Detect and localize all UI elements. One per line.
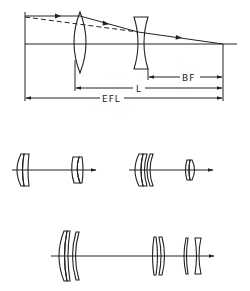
top-schematic: BF L EFL	[25, 12, 237, 104]
lens-layout-2	[129, 154, 213, 186]
ray-arrow-icon	[103, 21, 109, 26]
negative-lens	[134, 17, 148, 69]
l-dimension: L	[76, 84, 222, 94]
efl-dimension: EFL	[26, 94, 222, 104]
telephoto-diagram: BF L EFL	[0, 0, 250, 291]
positive-lens	[74, 12, 86, 73]
lens-layout-3	[51, 231, 214, 281]
bf-dimension: BF	[149, 73, 222, 83]
lens-layout-1	[12, 154, 96, 186]
ray-arrow-icon	[55, 14, 61, 19]
bf-label: BF	[182, 73, 195, 83]
l-label: L	[136, 84, 142, 94]
ray-arrow-icon	[176, 35, 182, 40]
dashed-ray	[25, 17, 138, 32]
efl-label: EFL	[102, 94, 121, 104]
